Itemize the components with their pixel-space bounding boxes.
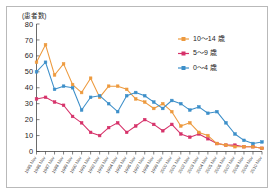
data-point <box>35 61 38 64</box>
data-point <box>188 121 191 124</box>
data-point <box>116 110 119 113</box>
data-point <box>134 91 137 94</box>
data-point <box>252 142 255 145</box>
data-point <box>234 145 237 148</box>
data-point <box>71 115 74 118</box>
y-tick-label: 0 <box>29 147 33 156</box>
data-point <box>261 147 264 150</box>
data-point <box>179 102 182 105</box>
y-tick-label: 10 <box>25 131 33 140</box>
data-point <box>207 137 210 140</box>
data-point <box>80 121 83 124</box>
data-point <box>98 94 101 97</box>
data-point <box>107 85 110 88</box>
data-point <box>161 102 164 105</box>
data-point <box>161 129 164 132</box>
data-point <box>152 107 155 110</box>
data-point <box>198 106 201 109</box>
series-line <box>37 62 263 143</box>
data-point <box>125 94 128 97</box>
y-tick-label: 30 <box>25 99 33 108</box>
data-point <box>143 118 146 121</box>
data-point <box>62 85 65 88</box>
data-point <box>234 133 237 136</box>
data-point <box>125 131 128 134</box>
axes: 01020304050607080 <box>25 20 262 157</box>
data-point <box>134 98 137 101</box>
y-tick-label: 70 <box>25 36 33 45</box>
data-point <box>80 109 83 112</box>
data-point <box>243 145 246 148</box>
data-point <box>62 62 65 65</box>
x-axis-labels: 1985 Nov1986 Nov1987 Nov1988 Nov1989 Nov… <box>24 152 264 175</box>
series-1 <box>35 43 263 149</box>
data-point <box>152 123 155 126</box>
data-point <box>161 107 164 110</box>
data-point <box>107 102 110 105</box>
data-point <box>170 99 173 102</box>
y-tick-label: 20 <box>25 115 33 124</box>
data-point <box>179 125 182 128</box>
data-point <box>71 83 74 86</box>
data-point <box>125 88 128 91</box>
data-point <box>71 86 74 89</box>
data-point <box>44 96 47 99</box>
data-point <box>35 70 38 73</box>
data-point <box>143 101 146 104</box>
data-point <box>116 121 119 124</box>
series-2 <box>35 96 263 150</box>
data-point <box>143 94 146 97</box>
series-3 <box>35 61 263 145</box>
data-point <box>207 112 210 115</box>
data-point <box>80 91 83 94</box>
plot-area: 010203040506070801985 Nov1986 Nov1987 No… <box>0 0 274 194</box>
data-point <box>198 131 201 134</box>
data-point <box>216 142 219 145</box>
data-point <box>44 43 47 46</box>
legend-swatch-marker <box>182 52 185 55</box>
legend-label: 10〜14 歳 <box>193 34 225 42</box>
data-point <box>53 101 56 104</box>
line-chart-svg: 010203040506070801985 Nov1986 Nov1987 No… <box>0 0 274 194</box>
data-point <box>107 126 110 129</box>
data-point <box>44 61 47 64</box>
data-point <box>216 110 219 113</box>
legend-label: 5〜9 歳 <box>193 48 217 56</box>
data-point <box>89 77 92 80</box>
legend-swatch-marker <box>182 67 185 70</box>
data-point <box>53 74 56 77</box>
y-tick-label: 50 <box>25 67 33 76</box>
series-line <box>37 45 263 149</box>
legend-label: 0〜4 歳 <box>193 63 217 71</box>
data-point <box>225 144 228 147</box>
data-point <box>170 123 173 126</box>
data-point <box>116 85 119 88</box>
y-tick-label: 60 <box>25 51 33 60</box>
data-point <box>207 134 210 137</box>
data-point <box>62 104 65 107</box>
data-point <box>170 110 173 113</box>
data-point <box>188 109 191 112</box>
data-point <box>89 96 92 99</box>
data-point <box>152 101 155 104</box>
data-point <box>89 131 92 134</box>
data-point <box>179 133 182 136</box>
data-point <box>134 125 137 128</box>
data-point <box>225 121 228 124</box>
data-point <box>252 145 255 148</box>
data-point <box>261 141 264 144</box>
data-point <box>98 134 101 137</box>
y-tick-label: 80 <box>25 20 33 29</box>
chart-figure: (患者数) 010203040506070801985 Nov1986 Nov1… <box>0 0 274 194</box>
data-point <box>243 139 246 142</box>
data-point <box>35 98 38 101</box>
data-point <box>188 136 191 139</box>
y-tick-label: 40 <box>25 83 33 92</box>
data-point <box>53 88 56 91</box>
legend: 10〜14 歳5〜9 歳0〜4 歳 <box>178 34 225 71</box>
legend-swatch-marker <box>182 38 185 41</box>
